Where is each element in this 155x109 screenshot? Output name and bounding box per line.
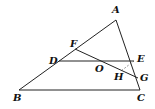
label-G: G bbox=[140, 72, 149, 83]
diagram-canvas: A B C D E F O G H bbox=[0, 0, 155, 109]
label-B: B bbox=[12, 92, 21, 103]
label-C: C bbox=[137, 92, 145, 103]
segment-AB bbox=[19, 20, 116, 90]
label-E: E bbox=[136, 53, 145, 64]
label-A: A bbox=[111, 4, 120, 15]
label-H: H bbox=[113, 71, 124, 82]
segment-FG bbox=[75, 49, 138, 78]
label-O: O bbox=[95, 63, 104, 74]
label-F: F bbox=[69, 38, 78, 49]
labels-group: A B C D E F O G H bbox=[12, 4, 149, 103]
label-D: D bbox=[48, 55, 58, 66]
geometry-diagram: A B C D E F O G H bbox=[0, 0, 155, 109]
